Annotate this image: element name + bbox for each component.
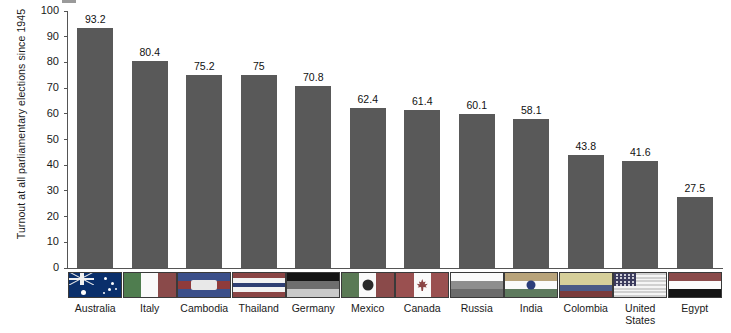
colombia-flag [559, 272, 613, 298]
flag-star [620, 274, 622, 276]
mexico-flag [341, 272, 395, 298]
country-label: Thailand [232, 303, 286, 315]
flag-stripe [342, 273, 360, 297]
flag-star [632, 281, 634, 283]
y-axis-tick-mark [64, 62, 68, 63]
bar-value-label: 70.8 [303, 71, 323, 83]
country-label: Australia [68, 303, 122, 315]
flag-star [628, 284, 630, 286]
bar: 80.4 [132, 61, 168, 268]
y-axis-tick-mark [64, 139, 68, 140]
flag-stripe [396, 273, 414, 297]
india-flag [504, 272, 558, 298]
flag-stripe [158, 273, 176, 297]
flag-stripe [141, 273, 159, 297]
y-axis-tick-mark [64, 242, 68, 243]
bar-value-label: 75.2 [194, 60, 214, 72]
country-cell-egypt: Egypt [668, 272, 722, 315]
flag-stripe [669, 281, 721, 289]
country-cell-germany: Germany [286, 272, 340, 315]
flag-emblem [527, 281, 536, 290]
flag-stripe [669, 289, 721, 297]
flag-star [620, 277, 622, 279]
y-axis-tick-mark [64, 190, 68, 191]
country-label: Colombia [559, 303, 613, 315]
bar: 75.2 [186, 75, 222, 268]
united-states-flag [613, 272, 667, 298]
x-axis-line [67, 268, 723, 269]
bar-value-label: 60.1 [467, 99, 487, 111]
flag-star [108, 288, 111, 291]
country-label: Italy [123, 303, 177, 315]
bar: 93.2 [77, 28, 113, 268]
country-label: Russia [450, 303, 504, 315]
plot-area: 100908070605040302010093.280.475.27570.8… [68, 11, 722, 268]
y-axis-tick-mark [64, 216, 68, 217]
bar-value-label: 62.4 [358, 93, 378, 105]
flag-star [104, 277, 107, 280]
flag-star [620, 281, 622, 283]
angkor-wat-emblem [191, 280, 217, 290]
country-cell-colombia: Colombia [559, 272, 613, 315]
bar: 75 [241, 75, 277, 268]
flag-star [628, 274, 630, 276]
bar-value-label: 43.8 [576, 140, 596, 152]
y-axis-tick-mark [64, 113, 68, 114]
flag-stripe [178, 289, 230, 297]
italy-flag [123, 272, 177, 298]
bar: 60.1 [459, 114, 495, 268]
flag-star [111, 282, 114, 285]
bar-value-label: 58.1 [521, 104, 541, 116]
flag-star [616, 284, 618, 286]
country-label: Canada [395, 303, 449, 315]
y-axis-tick-label: 30 [19, 184, 59, 196]
flag-stripe [505, 289, 557, 297]
country-label: Germany [286, 303, 340, 315]
flag-star [81, 290, 86, 295]
flag-emblem [362, 280, 373, 291]
country-cell-cambodia: Cambodia [177, 272, 231, 315]
y-axis-tick-mark [64, 11, 68, 12]
cambodia-flag [177, 272, 231, 298]
flag-stripe [287, 289, 339, 297]
flag-stripe [376, 273, 394, 297]
y-axis-tick-mark [64, 268, 68, 269]
bar-chart: Turnout at all parliamentary elections s… [0, 0, 731, 333]
flag-stripe [669, 273, 721, 281]
bar-value-label: 93.2 [85, 13, 105, 25]
bar: 61.4 [404, 110, 440, 268]
y-axis-tick-label: 80 [19, 55, 59, 67]
russia-flag [450, 272, 504, 298]
flag-star [628, 281, 630, 283]
country-label: United States [613, 303, 667, 326]
y-axis-tick-label: 60 [19, 107, 59, 119]
flag-star [115, 288, 117, 290]
country-label: India [504, 303, 558, 315]
y-axis-tick-label: 10 [19, 235, 59, 247]
country-cell-thailand: Thailand [232, 272, 286, 315]
country-label: Cambodia [177, 303, 231, 315]
flag-stripe [451, 281, 503, 289]
bar-value-label: 75 [253, 60, 265, 72]
flag-stripe [287, 273, 339, 281]
y-axis-tick-label: 70 [19, 81, 59, 93]
flag-star [103, 292, 105, 294]
flag-star [624, 281, 626, 283]
country-cell-united-states: United States [613, 272, 667, 326]
flag-star [624, 274, 626, 276]
flag-stripe [431, 273, 449, 297]
bar: 43.8 [568, 155, 604, 268]
bar: 27.5 [677, 197, 713, 268]
country-cell-india: India [504, 272, 558, 315]
flag-star [632, 284, 634, 286]
flag-stripe [560, 291, 612, 297]
country-cell-mexico: Mexico [341, 272, 395, 315]
y-axis-tick-mark [64, 36, 68, 37]
flag-stripe [451, 273, 503, 281]
top-edge-artifact [62, 0, 76, 3]
bar: 58.1 [513, 119, 549, 268]
bar-value-label: 27.5 [685, 182, 705, 194]
y-axis-tick-label: 20 [19, 210, 59, 222]
flag-label-row: AustraliaItalyCambodiaThailandGermanyMex… [50, 272, 731, 333]
flag-stripe [614, 295, 666, 297]
